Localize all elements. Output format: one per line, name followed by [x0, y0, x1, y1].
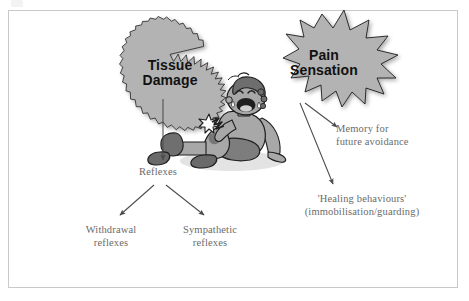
diagram-canvas: Tissue Damage Pain Sensation Reflexes Wi… — [0, 0, 469, 301]
arrow-reflexes-to-withdrawal — [120, 185, 154, 215]
healing-line2: (immobilisation/guarding) — [286, 205, 438, 218]
reflexes-label: Reflexes — [120, 165, 196, 178]
healing-behaviours-label: 'Healing behaviours' (immobilisation/gua… — [286, 192, 438, 219]
withdrawal-line2: reflexes — [72, 236, 150, 249]
withdrawal-line1: Withdrawal — [72, 223, 150, 236]
memory-avoidance-label: Memory for future avoidance — [336, 122, 440, 149]
withdrawal-reflexes-label: Withdrawal reflexes — [72, 223, 150, 250]
healing-line1: 'Healing behaviours' — [286, 192, 438, 205]
tissue-damage-burst — [120, 16, 227, 130]
sympathetic-line2: reflexes — [168, 236, 252, 249]
pain-sensation-burst — [283, 10, 398, 107]
memory-line1: Memory for — [336, 122, 440, 135]
arrow-pain-to-healing — [300, 103, 333, 184]
memory-line2: future avoidance — [336, 135, 440, 148]
sympathetic-reflexes-label: Sympathetic reflexes — [168, 223, 252, 250]
arrow-pain-to-memory — [305, 103, 337, 127]
diagram-graphics — [0, 0, 469, 301]
sympathetic-line1: Sympathetic — [168, 223, 252, 236]
arrow-reflexes-to-sympathetic — [166, 185, 204, 215]
